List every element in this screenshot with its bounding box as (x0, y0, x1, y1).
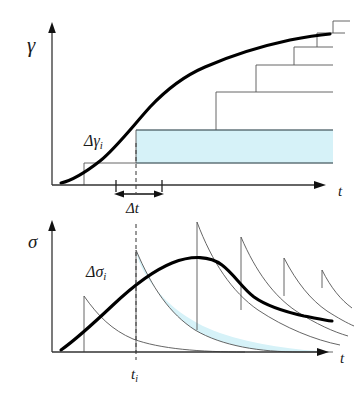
stress-y-axis (48, 220, 56, 352)
strain-y-axis (48, 22, 56, 185)
strain-increment-band (136, 130, 333, 163)
delta-gamma-label: Δγi (83, 132, 103, 151)
strain-y-axis-label: γ (27, 33, 36, 57)
delta-sigma-label: Δσi (85, 263, 106, 282)
stress-panel: σ t Δσi ti (28, 220, 354, 384)
strain-x-axis-label: t (338, 183, 343, 199)
ti-label: ti (131, 366, 138, 384)
viscoelasticity-superposition-figure: γ t Δγi Δt (0, 0, 360, 399)
delta-t-label: Δt (125, 200, 140, 216)
stress-x-axis-label: t (340, 350, 345, 366)
strain-x-axis (52, 181, 326, 189)
stress-y-axis-label: σ (28, 231, 38, 252)
strain-panel: γ t Δγi Δt (27, 21, 350, 216)
delta-t-measure (114, 180, 164, 198)
stress-relaxation-responses (84, 222, 354, 352)
